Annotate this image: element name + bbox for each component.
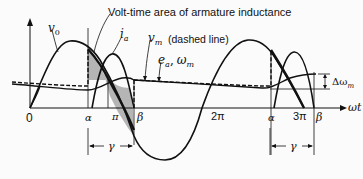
label-vm-note: (dashed line) <box>168 33 229 45</box>
waveform-diagram: Volt-time area of armature inductance v0… <box>0 0 363 179</box>
dwm-arrow-head-up <box>323 74 327 78</box>
vm-dashed-line <box>12 49 271 110</box>
dwm-arrow-head-down <box>323 85 327 89</box>
annotation-leader <box>94 14 110 52</box>
tick-alpha-1: α <box>85 112 92 123</box>
label-axis-wt: ωt <box>348 101 362 114</box>
annotation-text: Volt-time area of armature inductance <box>108 6 291 18</box>
tick-alpha-2: α <box>268 112 275 123</box>
gamma2-head-r <box>308 144 313 148</box>
tick-zero: 0 <box>26 111 33 125</box>
tick-pi: π <box>111 111 119 122</box>
tick-beta-1: β <box>136 111 143 124</box>
tick-2pi: 2π <box>211 110 225 122</box>
tick-3pi: 3π <box>293 110 307 122</box>
gamma-label-1: γ <box>108 140 115 153</box>
gamma-label-2: γ <box>290 140 297 153</box>
v0-waveform <box>30 40 304 160</box>
label-vm: vm <box>148 31 163 47</box>
y-axis-arrow <box>27 18 33 26</box>
gamma2-head-l <box>271 144 276 148</box>
label-dwm: Δωm <box>332 76 354 90</box>
label-ea-wm: ea,ωm <box>158 53 195 69</box>
gamma1-head-l <box>89 144 94 148</box>
ia-pulse-2 <box>274 52 314 108</box>
vm-leader <box>145 40 150 80</box>
gamma1-head-r <box>128 144 133 148</box>
label-v0: v0 <box>48 21 60 37</box>
tick-beta-2: β <box>315 111 322 124</box>
diagram: Volt-time area of armature inductance v0… <box>0 0 363 179</box>
label-ia: ia <box>120 27 129 43</box>
x-axis-arrow <box>340 105 347 111</box>
v0-trough-1 <box>30 86 40 108</box>
